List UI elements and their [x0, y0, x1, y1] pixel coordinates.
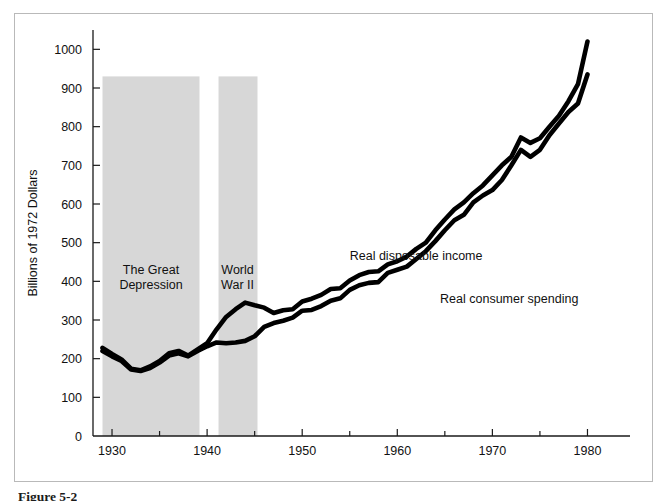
figure-caption: Figure 5-2 [18, 489, 77, 501]
band-label-2: War II [221, 278, 254, 292]
y-tick-label: 500 [61, 236, 82, 250]
x-tick-label: 1960 [383, 444, 411, 458]
shaded-band-2 [219, 76, 258, 436]
x-tick-label: 1980 [574, 444, 602, 458]
x-tick-label: 1950 [288, 444, 316, 458]
band-label-1: Depression [119, 278, 182, 292]
y-axis-title: Billions of 1972 Dollars [26, 169, 40, 296]
y-tick-label: 1000 [54, 43, 82, 57]
y-tick-label: 700 [61, 159, 82, 173]
shaded-band-1 [103, 76, 200, 436]
band-label-1: The Great [123, 263, 180, 277]
x-tick-label: 1930 [98, 444, 126, 458]
y-tick-label: 800 [61, 120, 82, 134]
chart-canvas: The GreatDepressionWorldWar II0100200300… [15, 14, 652, 481]
x-tick-label: 1970 [478, 444, 506, 458]
band-label-2: World [221, 263, 253, 277]
y-tick-label: 300 [61, 314, 82, 328]
y-tick-label: 100 [61, 391, 82, 405]
figure-frame: The GreatDepressionWorldWar II0100200300… [14, 13, 653, 482]
y-tick-label: 0 [75, 430, 82, 444]
y-tick-label: 400 [61, 275, 82, 289]
y-tick-label: 900 [61, 82, 82, 96]
series-label-2: Real consumer spending [440, 292, 578, 306]
figure-root: The GreatDepressionWorldWar II0100200300… [0, 0, 666, 501]
x-tick-label: 1940 [193, 444, 221, 458]
series-label-1: Real disposable income [350, 249, 483, 263]
y-tick-label: 600 [61, 198, 82, 212]
y-tick-label: 200 [61, 352, 82, 366]
